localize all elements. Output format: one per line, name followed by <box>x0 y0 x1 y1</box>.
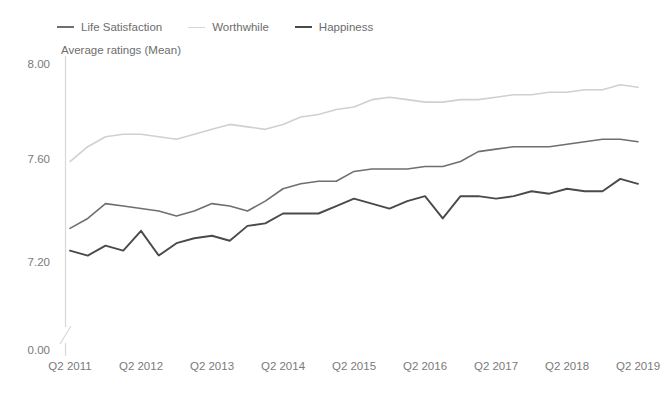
chart-series-layer <box>70 85 638 256</box>
y-tick-7-20: 7.20 <box>4 256 50 268</box>
x-tick-q2-2014: Q2 2014 <box>261 360 305 372</box>
y-axis-line-group <box>60 56 71 356</box>
series-line-life-satisfaction <box>70 139 638 228</box>
chart-page: Life Satisfaction Worthwhile Happiness A… <box>0 0 670 403</box>
x-tick-q2-2011: Q2 2011 <box>48 360 91 372</box>
x-tick-q2-2015: Q2 2015 <box>332 360 376 372</box>
y-axis-tick-labels: 8.00 7.60 7.20 0.00 <box>4 0 50 403</box>
x-tick-q2-2016: Q2 2016 <box>403 360 447 372</box>
x-tick-q2-2012: Q2 2012 <box>119 360 163 372</box>
x-axis-tick-labels: Q2 2011Q2 2012Q2 2013Q2 2014Q2 2015Q2 20… <box>0 360 670 378</box>
series-line-worthwhile <box>70 85 638 162</box>
chart-plot-area <box>0 0 670 403</box>
x-tick-q2-2017: Q2 2017 <box>474 360 518 372</box>
y-axis-break-icon <box>60 326 71 344</box>
y-tick-0-00: 0.00 <box>4 344 50 356</box>
y-tick-7-60: 7.60 <box>4 153 50 165</box>
series-line-happiness <box>70 179 638 256</box>
x-tick-q2-2019: Q2 2019 <box>616 360 660 372</box>
x-tick-q2-2013: Q2 2013 <box>190 360 234 372</box>
x-tick-q2-2018: Q2 2018 <box>545 360 589 372</box>
y-tick-8-00: 8.00 <box>4 58 50 70</box>
